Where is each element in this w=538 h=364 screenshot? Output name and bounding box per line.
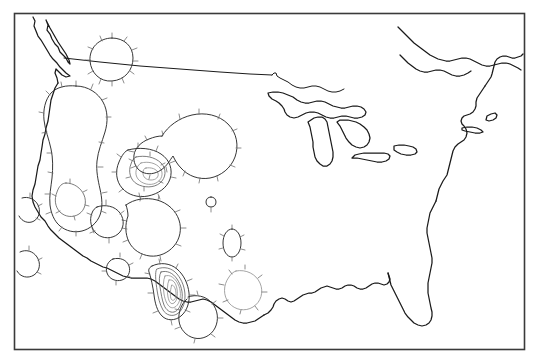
pacific-northwest-coast: [33, 17, 70, 83]
contour-high-plains-dot: [206, 197, 216, 212]
contour-northern-plains-cell: [85, 33, 138, 86]
east-coast-outline: [436, 86, 485, 201]
new-england-coast-outline: [485, 54, 523, 86]
lake-huron-outline: [337, 120, 370, 148]
cape-cod-outline: [486, 113, 497, 121]
contour-southern-basin-band: [122, 193, 186, 261]
west-coast-outline: [32, 83, 264, 323]
contour-central-texas-cell: [219, 265, 267, 314]
florida-peninsula-outline: [388, 201, 436, 326]
vancouver-island-outline: [46, 20, 70, 64]
gulf-coast-outline: [264, 273, 390, 315]
contour-california-coast-cell: [87, 200, 127, 243]
contour-southwest-gradient-cell: [145, 259, 195, 325]
contour-west-edge-fragments: [17, 193, 42, 277]
minnesota-border-notch: [272, 73, 344, 92]
st-lawrence-outline: [398, 27, 521, 70]
contour-central-rockies-lobe: [129, 109, 241, 183]
us-canada-border-49th: [64, 58, 272, 75]
map-svg: [0, 0, 538, 364]
contour-texas-panhandle-cell: [219, 225, 245, 261]
contour-northern-rockies-cell: [112, 143, 176, 201]
border-group: [64, 58, 344, 92]
lake-ontario-outline: [394, 145, 417, 155]
contour-map-figure: [0, 0, 538, 364]
lake-erie-outline: [352, 153, 390, 162]
coastline-group: [32, 17, 523, 326]
contour-southern-california-cell: [102, 253, 133, 285]
map-frame: [15, 14, 525, 350]
long-island-outline: [462, 127, 483, 133]
lake-michigan-outline: [308, 117, 333, 166]
lake-superior-outline: [268, 92, 366, 118]
